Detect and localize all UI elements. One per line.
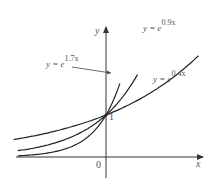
x-axis-label: x [195,158,201,169]
y-axis-label: y [94,25,100,36]
annotation-arrow [72,67,111,73]
label-e-0.4x: y = e0.4x [152,69,186,84]
origin-label: 0 [96,159,101,170]
intercept-point [105,114,108,117]
intercept-label: 1 [109,111,114,122]
curve-e-1.7x [18,83,120,155]
label-e-1.7x: y = e1.7x [45,54,79,69]
label-e-0.9x: y = e0.9x [142,18,176,33]
exponential-chart: y x 0 1 y = e1.7x y = e0.9x y = e0.4x [0,0,214,188]
